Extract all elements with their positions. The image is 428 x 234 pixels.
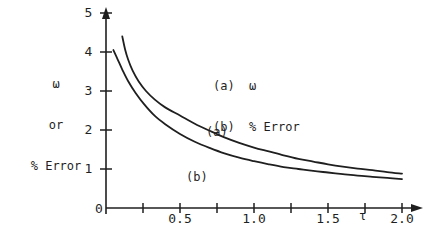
x-tick-label-1-0: 1.0 xyxy=(234,212,274,227)
y-tick-label-5: 5 xyxy=(82,6,95,21)
y-tick-label-3: 3 xyxy=(82,84,95,99)
curve-b-label: (b) xyxy=(186,171,208,185)
legend: (a) ω (b) % Error xyxy=(213,52,300,162)
curve-a-label: (a) xyxy=(206,126,228,140)
x-tick-label-1-5: 1.5 xyxy=(308,212,348,227)
y-tick-label-2: 2 xyxy=(82,123,95,138)
figure-canvas: ω or % Error (a) ω (b) % Error 0 1 2 3 4… xyxy=(0,0,428,234)
y-tick-label-1: 1 xyxy=(82,162,95,177)
y-tick-label-4: 4 xyxy=(82,45,95,60)
legend-entry-a: (a) ω xyxy=(213,80,300,94)
origin-tick-label: 0 xyxy=(95,202,103,217)
x-axis-title: τ xyxy=(359,210,366,224)
x-tick-label-2-0: 2.0 xyxy=(382,212,422,227)
x-tick-label-0-5: 0.5 xyxy=(160,212,200,227)
